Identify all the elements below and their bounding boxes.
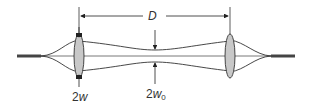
beam-width-marker-bottom [76, 75, 82, 79]
waist-width-label: 2w0 [146, 88, 166, 102]
distance-label: D [148, 10, 157, 22]
right-convergence-upper [230, 40, 271, 56]
right-convergence-lower [230, 56, 271, 72]
left-divergence-lower [41, 56, 79, 72]
beam-lower-edge [79, 62, 230, 71]
left-divergence-upper [41, 40, 79, 56]
beam-upper-edge [79, 41, 230, 50]
right-lens [225, 34, 235, 78]
beam-width-marker-top [76, 33, 82, 37]
left-lens [74, 34, 84, 78]
beam-width-label: 2w [72, 91, 87, 103]
